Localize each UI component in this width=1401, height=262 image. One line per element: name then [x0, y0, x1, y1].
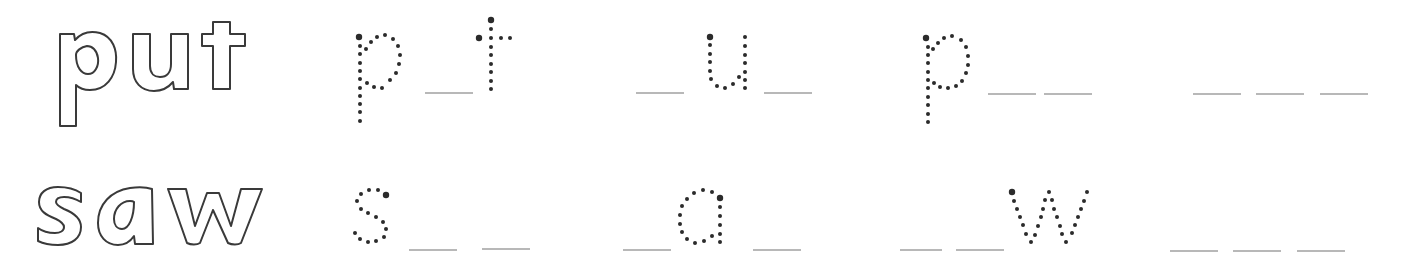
traceable-letter-t: [470, 0, 530, 130]
letter-blank[interactable]: [988, 93, 1036, 95]
letter-blank[interactable]: [1044, 93, 1092, 95]
outline-word-put: [0, 0, 260, 130]
traceable-letter-p: [917, 0, 977, 130]
traceable-letter-w: [1000, 131, 1090, 262]
letter-blank[interactable]: [1193, 93, 1241, 95]
letter-blank[interactable]: [1170, 250, 1218, 252]
letter-blank[interactable]: [482, 248, 530, 250]
letter-blank[interactable]: [1320, 93, 1368, 95]
traceable-letter-a: [672, 131, 732, 262]
letter-blank[interactable]: [764, 92, 812, 94]
letter-blank[interactable]: [409, 249, 457, 251]
letter-blank[interactable]: [753, 249, 801, 251]
outline-word-saw: [0, 131, 280, 262]
letter-blank[interactable]: [623, 249, 671, 251]
letter-blank[interactable]: [1233, 250, 1281, 252]
letter-blank[interactable]: [425, 92, 473, 94]
letter-blank[interactable]: [900, 249, 942, 251]
letter-blank[interactable]: [636, 92, 684, 94]
letter-blank[interactable]: [1256, 93, 1304, 95]
traceable-letter-p: [350, 0, 410, 130]
traceable-letter-u: [700, 0, 760, 130]
letter-blank[interactable]: [956, 249, 1004, 251]
letter-blank[interactable]: [1297, 250, 1345, 252]
traceable-letter-s: [350, 131, 410, 262]
